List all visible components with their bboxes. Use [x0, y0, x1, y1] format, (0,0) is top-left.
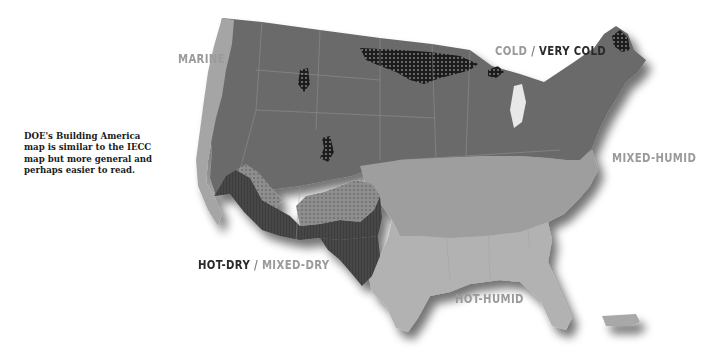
caption-line: DOE's Building America — [24, 131, 174, 142]
caption-line: map is similar to the IECC — [24, 142, 174, 153]
label-hot-humid: HOT-HUMID — [455, 292, 524, 306]
label-cold: COLD — [495, 44, 527, 58]
caption-line: map but more general and — [24, 154, 174, 165]
puerto-rico — [602, 314, 640, 326]
label-mixed-humid: MIXED-HUMID — [612, 151, 696, 165]
caption-line: perhaps easier to read. — [24, 165, 174, 176]
label-very-cold: VERY COLD — [539, 44, 606, 58]
label-separator: / — [250, 258, 262, 272]
label-hot-dry-mixed-dry: HOT-DRY / MIXED-DRY — [198, 258, 329, 272]
label-separator: / — [527, 44, 539, 58]
map-caption: DOE's Building America map is similar to… — [24, 131, 174, 177]
zone-mixed-humid — [360, 150, 598, 238]
label-marine: MARINE — [178, 52, 225, 66]
label-hot-dry: HOT-DRY — [198, 258, 250, 272]
label-cold-very-cold: COLD / VERY COLD — [495, 44, 606, 58]
label-mixed-dry: MIXED-DRY — [262, 258, 329, 272]
